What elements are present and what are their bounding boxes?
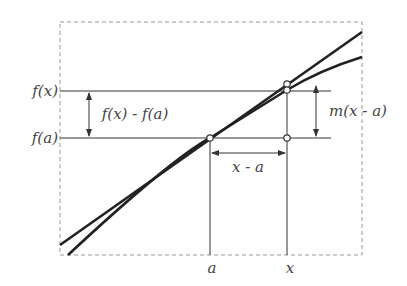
point-x-fx — [284, 87, 290, 93]
a-tick-label: a — [208, 259, 217, 277]
fx-label: f(x) — [31, 82, 58, 100]
tangent-diagram: f(x) f(a) f(x) - f(a) m(x - a) x - a a x — [0, 0, 407, 286]
difference-label: f(x) - f(a) — [101, 105, 169, 123]
point-x-fa — [284, 135, 290, 141]
point-a-fa — [207, 135, 213, 141]
dx-label: x - a — [232, 158, 264, 176]
x-tick-label: x — [286, 259, 295, 277]
fa-label: f(a) — [31, 129, 58, 147]
slope-term-label: m(x - a) — [329, 102, 387, 120]
function-curve — [68, 57, 362, 255]
